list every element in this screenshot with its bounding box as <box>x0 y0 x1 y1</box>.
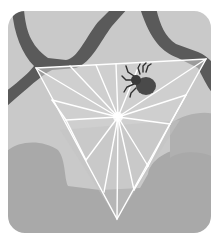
spider-head <box>131 75 141 85</box>
illustration-frame <box>0 0 218 241</box>
spider-web-illustration <box>0 0 218 241</box>
web-center-glow <box>113 112 123 122</box>
